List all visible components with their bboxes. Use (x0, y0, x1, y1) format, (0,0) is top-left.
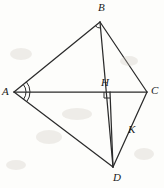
vertex-label-K: K (128, 124, 135, 135)
vertex-label-D: D (113, 172, 121, 183)
segment-AB (14, 22, 100, 92)
geometry-figure: A B C D H K (0, 0, 164, 188)
segment-BD (100, 22, 113, 167)
segment-AD (14, 92, 113, 167)
vertex-label-B: B (98, 2, 105, 13)
markers-group (23, 26, 110, 102)
vertex-label-A: A (2, 86, 9, 97)
vertex-label-C: C (151, 85, 158, 96)
geometry-canvas (0, 0, 164, 188)
vertex-label-H: H (101, 77, 109, 88)
segments-group (14, 22, 147, 167)
